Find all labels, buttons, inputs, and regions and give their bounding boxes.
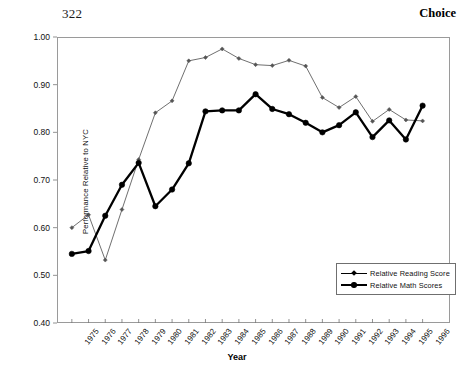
data-point-reading	[254, 63, 258, 67]
data-point-math	[420, 103, 425, 108]
data-point-math	[153, 204, 158, 209]
legend-item-reading: Relative Reading Score	[341, 267, 450, 279]
data-point-math	[253, 92, 258, 97]
data-point-reading	[270, 64, 274, 68]
data-point-math	[353, 110, 358, 115]
data-point-math	[270, 106, 275, 111]
data-point-math	[219, 108, 224, 113]
data-point-math	[69, 251, 74, 256]
chart-canvas	[0, 0, 474, 369]
series-line-reading	[72, 49, 423, 260]
data-point-reading	[220, 47, 224, 51]
legend-swatch-math-icon	[341, 280, 367, 291]
data-point-reading	[421, 119, 425, 123]
data-point-math	[136, 160, 141, 165]
data-point-math	[336, 122, 341, 127]
data-point-math	[320, 130, 325, 135]
legend-label-reading: Relative Reading Score	[370, 269, 450, 278]
data-point-math	[186, 161, 191, 166]
data-point-reading	[320, 96, 324, 100]
data-point-reading	[237, 56, 241, 60]
data-point-math	[236, 108, 241, 113]
data-point-reading	[120, 208, 124, 212]
page: 322 Choice 1.000.900.800.700.600.500.40 …	[0, 0, 474, 369]
data-point-reading	[103, 258, 107, 262]
data-point-math	[103, 213, 108, 218]
data-point-math	[86, 248, 91, 253]
data-point-reading	[287, 58, 291, 62]
data-point-math	[303, 120, 308, 125]
data-point-math	[119, 182, 124, 187]
data-point-math	[203, 109, 208, 114]
data-point-math	[386, 118, 391, 123]
data-point-math	[286, 112, 291, 117]
data-point-reading	[203, 55, 207, 59]
x-axis-title: Year	[0, 352, 474, 362]
data-point-math	[169, 187, 174, 192]
data-point-reading	[187, 59, 191, 63]
legend-label-math: Relative Math Scores	[370, 281, 442, 290]
legend-swatch-reading-icon	[341, 268, 367, 279]
legend-item-math: Relative Math Scores	[341, 279, 450, 291]
data-point-math	[370, 134, 375, 139]
data-point-math	[403, 137, 408, 142]
line-chart-figure: 1.000.900.800.700.600.500.40 19751976197…	[0, 0, 474, 369]
chart-legend: Relative Reading Score Relative Math Sco…	[336, 263, 456, 295]
data-point-reading	[304, 64, 308, 68]
data-point-reading	[404, 118, 408, 122]
